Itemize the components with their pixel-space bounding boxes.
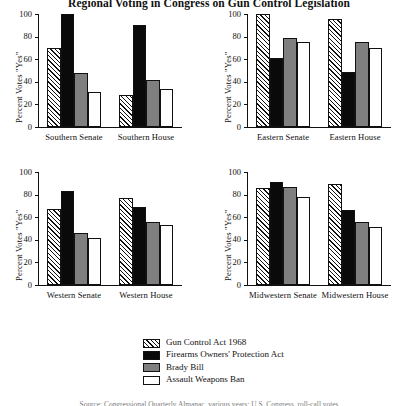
y-tick-label: 20 <box>211 99 241 109</box>
x-axis-line <box>38 285 182 286</box>
y-tick <box>244 172 247 173</box>
y-tick <box>35 127 38 128</box>
bar-southern-1-3 <box>160 89 174 127</box>
bar-western-0-2 <box>74 233 88 285</box>
panel-midwestern: Percent Votes "Yes"020406080100Midwester… <box>209 168 418 326</box>
y-axis-line <box>38 14 39 127</box>
bar-eastern-0-2 <box>283 38 297 127</box>
y-tick <box>244 82 247 83</box>
y-tick <box>244 285 247 286</box>
y-tick <box>35 195 38 196</box>
bar-western-0-1 <box>61 191 75 285</box>
bar-southern-1-1 <box>133 25 147 127</box>
y-tick-label: 40 <box>211 234 241 244</box>
y-tick-label: 0 <box>211 122 241 132</box>
y-tick-label: 0 <box>2 280 32 290</box>
y-tick <box>244 14 247 15</box>
y-tick-label: 80 <box>2 31 32 41</box>
bar-eastern-1-1 <box>342 72 356 127</box>
bar-midwestern-0-1 <box>270 182 284 285</box>
bar-western-1-0 <box>119 198 133 285</box>
y-axis-line <box>247 172 248 285</box>
bar-midwestern-0-2 <box>283 187 297 285</box>
bar-eastern-0-0 <box>256 14 270 127</box>
y-tick-label: 100 <box>211 167 241 177</box>
y-tick-label: 40 <box>2 76 32 86</box>
panel-western: Percent Votes "Yes"020406080100Western S… <box>0 168 209 326</box>
bar-western-1-1 <box>133 207 147 285</box>
y-tick-label: 80 <box>211 189 241 199</box>
y-tick <box>244 127 247 128</box>
y-tick <box>244 240 247 241</box>
y-tick-label: 20 <box>2 99 32 109</box>
y-tick-label: 40 <box>211 76 241 86</box>
y-tick <box>244 217 247 218</box>
y-tick <box>244 37 247 38</box>
y-tick <box>35 37 38 38</box>
y-tick-label: 80 <box>211 31 241 41</box>
y-axis-line <box>247 14 248 127</box>
bar-southern-1-2 <box>146 80 160 127</box>
y-tick-label: 100 <box>211 9 241 19</box>
x-axis-label: Midwestern House <box>301 290 409 300</box>
legend-label: Gun Control Act 1968 <box>166 337 246 347</box>
bar-eastern-1-0 <box>328 19 342 127</box>
bar-southern-1-0 <box>119 95 133 127</box>
y-tick <box>244 195 247 196</box>
bar-midwestern-1-3 <box>369 227 383 285</box>
bar-southern-0-0 <box>47 48 61 127</box>
y-tick <box>35 240 38 241</box>
bar-southern-0-3 <box>88 92 102 127</box>
panel-eastern: Percent Votes "Yes"020406080100Eastern S… <box>209 10 418 168</box>
bar-midwestern-0-0 <box>256 188 270 285</box>
x-axis-line <box>247 127 391 128</box>
figure: Regional Voting in Congress on Gun Contr… <box>0 0 418 406</box>
y-tick-label: 60 <box>2 54 32 64</box>
y-tick <box>244 104 247 105</box>
y-tick-label: 0 <box>211 280 241 290</box>
x-axis-label: Southern House <box>92 132 200 142</box>
bar-southern-0-1 <box>61 14 75 127</box>
legend-swatch-icon <box>143 376 160 385</box>
y-tick-label: 60 <box>211 54 241 64</box>
bar-midwestern-0-3 <box>297 197 311 285</box>
y-tick <box>35 262 38 263</box>
y-tick <box>35 104 38 105</box>
bar-eastern-1-2 <box>355 42 369 127</box>
y-tick <box>244 59 247 60</box>
y-tick <box>35 82 38 83</box>
y-tick <box>35 59 38 60</box>
legend-swatch-icon <box>143 363 160 372</box>
y-tick <box>35 285 38 286</box>
y-tick-label: 100 <box>2 167 32 177</box>
legend-swatch-icon <box>143 339 160 348</box>
bar-eastern-0-1 <box>270 58 284 127</box>
y-tick-label: 0 <box>2 122 32 132</box>
bar-midwestern-1-1 <box>342 210 356 285</box>
y-tick <box>244 262 247 263</box>
bar-western-0-0 <box>47 209 61 285</box>
legend-label: Firearms Owners' Protection Act <box>166 349 284 359</box>
y-tick-label: 40 <box>2 234 32 244</box>
x-axis-line <box>247 285 391 286</box>
y-tick-label: 80 <box>2 189 32 199</box>
y-axis-line <box>38 172 39 285</box>
bar-western-1-3 <box>160 225 174 285</box>
x-axis-line <box>38 127 182 128</box>
bar-southern-0-2 <box>74 73 88 127</box>
bar-eastern-1-3 <box>369 48 383 127</box>
bar-midwestern-1-0 <box>328 184 342 285</box>
panel-southern: Percent Votes "Yes"020406080100Southern … <box>0 10 209 168</box>
bar-western-0-3 <box>88 238 102 285</box>
figure-footnote: Source: Congressional Quarterly Almanac,… <box>0 400 418 406</box>
y-tick-label: 20 <box>2 257 32 267</box>
y-tick-label: 20 <box>211 257 241 267</box>
bar-midwestern-1-2 <box>355 222 369 285</box>
legend-label: Assault Weapons Ban <box>166 374 245 384</box>
y-tick-label: 60 <box>211 212 241 222</box>
y-tick <box>35 172 38 173</box>
y-tick-label: 100 <box>2 9 32 19</box>
y-tick <box>35 217 38 218</box>
x-axis-label: Western House <box>92 290 200 300</box>
bar-western-1-2 <box>146 222 160 285</box>
